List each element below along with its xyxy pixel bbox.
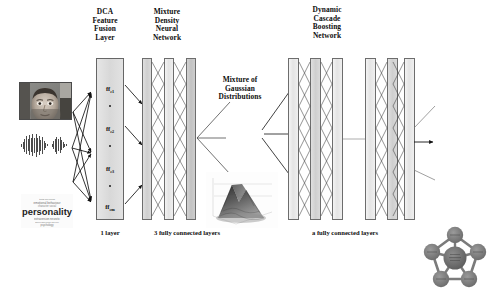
header-dca-feature-fusion-layer: DCA Feature Fusion Layer [76, 8, 134, 42]
dca-fusion-layer-column: ffc1 ffc2 ffc3 ffcm [96, 58, 124, 220]
fusion-ellipsis-dot-1 [109, 105, 111, 107]
mdnn-interconnections [152, 58, 186, 220]
caption-dca-layers: 1 layer [84, 229, 136, 237]
fusion-node-2: ffc2 [97, 125, 123, 134]
text-wordcloud: traits openness emotional behaviour char… [21, 194, 73, 228]
fusion-node-2-sub: c2 [110, 129, 114, 134]
arrows-inputs-to-fusion [70, 86, 96, 210]
fusion-ellipsis-dot-3 [109, 185, 111, 187]
svg-text:emotional behaviour: emotional behaviour [33, 201, 60, 205]
arrows-dcbn-to-graph [413, 100, 439, 184]
dcbn-b-interconnections [376, 58, 404, 220]
mdnn-layer-3 [186, 58, 196, 220]
header-mdnn-line-4: Network [138, 34, 196, 43]
header-dynamic-cascade-boosting-network: Dynamic Cascade Boosting Network [296, 6, 358, 40]
output-graph-network [424, 224, 486, 292]
fusion-node-4: ffcm [97, 203, 123, 212]
header-dca-line-4: Layer [76, 34, 134, 43]
dcbn-group-connector [343, 136, 365, 142]
fusion-node-3: ffc3 [97, 165, 123, 174]
fusion-ellipsis-dot-2 [109, 145, 111, 147]
audio-waveform [19, 132, 74, 158]
dcbn-b-layer-1 [365, 58, 376, 220]
dcbn-a-layer-3 [332, 58, 343, 220]
dcbn-a-interconnections [299, 58, 332, 220]
wordcloud-main-word: personality [22, 206, 73, 217]
svg-text:extraversion neurotic: extraversion neurotic [34, 217, 61, 221]
mdnn-layer-1 [142, 58, 152, 220]
fusion-node-1: ffc1 [97, 85, 123, 94]
dcbn-a-layer-1 [288, 58, 299, 220]
face-image [19, 82, 72, 120]
fusion-node-1-sub: c1 [110, 89, 114, 94]
header-dcbn-line-4: Network [296, 32, 358, 41]
svg-text:psychology: psychology [41, 223, 55, 227]
header-mixture-density-neural-network: Mixture Density Neural Network [138, 8, 196, 42]
fusion-node-4-sub: cm [109, 207, 114, 212]
caption-mdnn-layers: 3 fully connected layers [140, 229, 234, 237]
fusion-node-3-sub: c3 [110, 169, 114, 174]
arrows-mdnn-to-gaussian [196, 92, 234, 184]
caption-dcbn-layers: a fully connected layers [298, 229, 392, 237]
